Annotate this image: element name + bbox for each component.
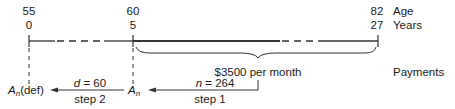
tick-age-2: 82 [371,5,384,18]
tick-year-0: 0 [26,19,32,32]
tick-year-1: 5 [130,19,136,32]
tick-year-2: 27 [371,19,384,32]
payment-brace [136,47,376,58]
row-label-years: Years [393,19,422,32]
step1-arrow [148,88,170,93]
row-label-payments: Payments [393,66,444,79]
step1-equation: n = 264 [196,77,235,90]
row-label-age: Age [393,5,413,18]
present-value-an: An [128,84,140,97]
tick-age-1: 60 [127,5,140,18]
deferred-present-value: An(def) [8,84,44,97]
step2-label: step 2 [74,93,105,106]
step2-value: = 60 [80,77,106,89]
timeline-graphic [0,0,455,109]
step2-equation: d = 60 [74,77,106,90]
step1-label: step 1 [194,93,225,106]
step1-value: = 264 [202,77,234,89]
tick-age-0: 55 [23,5,36,18]
